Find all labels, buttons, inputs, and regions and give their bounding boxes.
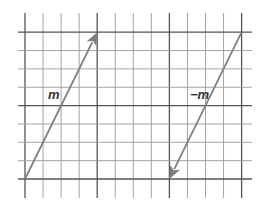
vector-m-label: m [48,87,60,102]
grid [18,13,252,198]
vector-neg-m-label: −m [190,87,210,102]
vector-diagram: m −m [0,0,263,206]
vector-m-shaft [25,42,92,179]
